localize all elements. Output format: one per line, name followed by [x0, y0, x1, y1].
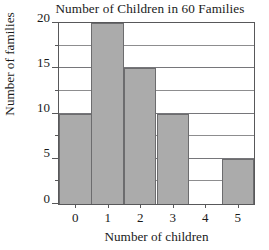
- bar-3: [157, 114, 190, 205]
- x-tick-label: 1: [105, 211, 112, 224]
- x-tick-label: 4: [202, 211, 209, 224]
- bar-slot: [157, 23, 190, 204]
- chart-figure: Number of Children in 60 Families Number…: [0, 0, 269, 250]
- x-axis-title: Number of children: [58, 229, 255, 244]
- y-axis-title: Number of families: [3, 4, 17, 124]
- plot-area: 05101520 012345: [58, 22, 255, 205]
- y-tick-label: 15: [37, 55, 50, 68]
- x-tick-label: 3: [170, 211, 177, 224]
- x-tick: [173, 204, 174, 208]
- y-tick-label: 10: [37, 101, 50, 114]
- y-tick: [55, 90, 59, 91]
- y-tick: [52, 113, 59, 114]
- x-tick: [205, 204, 206, 208]
- bar-slot: [189, 23, 222, 204]
- y-tick: [52, 67, 59, 68]
- y-tick: [52, 203, 59, 204]
- bar-1: [91, 23, 124, 204]
- y-tick-label: 0: [44, 191, 51, 204]
- y-tick: [55, 45, 59, 46]
- y-tick: [52, 22, 59, 23]
- x-tick: [108, 204, 109, 208]
- bar-2: [124, 68, 157, 204]
- x-tick: [140, 204, 141, 208]
- x-tick: [238, 204, 239, 208]
- bar-series: [59, 23, 254, 204]
- x-tick-label: 5: [235, 211, 242, 224]
- y-tick-label: 20: [37, 10, 50, 23]
- bar-slot: [59, 23, 92, 204]
- y-tick: [55, 180, 59, 181]
- bar-0: [59, 114, 92, 205]
- bar-5: [222, 159, 255, 204]
- y-tick: [52, 158, 59, 159]
- bar-slot: [124, 23, 157, 204]
- x-tick-label: 2: [137, 211, 144, 224]
- y-tick: [55, 135, 59, 136]
- x-tick: [75, 204, 76, 208]
- bar-slot: [222, 23, 255, 204]
- chart-title: Number of Children in 60 Families: [34, 1, 266, 17]
- x-tick-label: 0: [72, 211, 79, 224]
- y-tick-label: 5: [44, 146, 51, 159]
- bar-slot: [91, 23, 124, 204]
